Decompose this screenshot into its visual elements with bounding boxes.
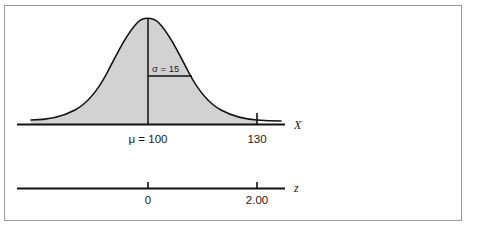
z-upper-tick-label: 2.00 — [246, 194, 268, 206]
sigma-annotation-label: σ = 15 — [152, 63, 179, 74]
shaded-area-under-curve — [31, 18, 257, 124]
mean-tick-label: μ = 100 — [129, 133, 168, 145]
x-axis-label: X — [293, 118, 302, 132]
upper-x-tick-label: 130 — [247, 133, 266, 145]
z-zero-tick-label: 0 — [145, 194, 151, 206]
normal-distribution-figure: σ = 15 μ = 100 130 X 0 2.00 z — [0, 0, 479, 228]
z-axis-label: z — [293, 181, 299, 195]
distribution-plot: σ = 15 μ = 100 130 X 0 2.00 z — [0, 0, 479, 228]
